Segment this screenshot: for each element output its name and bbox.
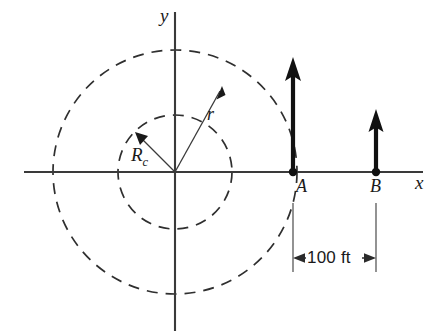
outer-radius-label: r xyxy=(207,105,214,123)
x-axis-label: x xyxy=(415,173,423,192)
inner-radius-label: Rc xyxy=(131,145,148,168)
dimension-arrowhead-right xyxy=(364,253,376,263)
point-b-dot xyxy=(372,168,380,176)
point-b-label: B xyxy=(370,177,381,195)
point-a-label: A xyxy=(296,177,307,195)
r-arrowhead xyxy=(217,86,226,100)
figure-container: y x Rc r A B 100 ft xyxy=(0,0,447,331)
inner-radius-subscript: c xyxy=(143,155,149,169)
dimension-label: 100 ft xyxy=(307,249,351,266)
y-axis-label: y xyxy=(160,6,168,25)
point-a-dot xyxy=(289,168,297,176)
inner-radius-symbol: R xyxy=(131,144,143,165)
diagram-canvas xyxy=(0,0,447,331)
dimension-arrowhead-left xyxy=(293,253,305,263)
